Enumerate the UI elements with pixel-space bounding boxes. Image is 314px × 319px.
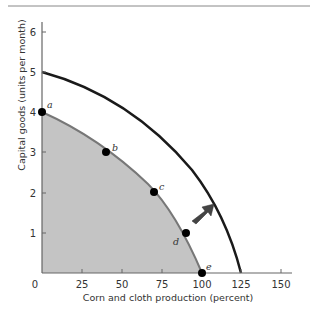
x-tick-label-50: 50 <box>116 279 129 290</box>
shift-arrow-icon <box>192 204 214 224</box>
point-label-e: e <box>206 261 212 272</box>
x-tick-label-125: 125 <box>231 279 250 290</box>
y-tick-label-5: 5 <box>30 67 36 78</box>
y-tick-label-4: 4 <box>30 107 36 118</box>
point-c <box>150 188 158 196</box>
point-label-a: a <box>47 99 53 110</box>
ppf-chart: 1 2 3 4 5 6 0 25 50 75 100 125 150 Corn … <box>0 0 314 319</box>
x-tick-label-100: 100 <box>192 279 211 290</box>
point-label-b: b <box>112 142 118 153</box>
y-tick-label-6: 6 <box>30 27 36 38</box>
y-axis-title: Capital goods (units per month) <box>16 19 27 170</box>
x-tick-label-75: 75 <box>156 279 169 290</box>
point-e <box>198 269 206 277</box>
y-tick-label-3: 3 <box>30 147 36 158</box>
point-b <box>102 148 110 156</box>
attainable-region <box>42 112 202 273</box>
y-tick-label-1: 1 <box>30 228 36 239</box>
x-axis-title: Corn and cloth production (percent) <box>83 292 253 303</box>
point-label-c: c <box>159 181 165 192</box>
point-d <box>182 229 190 237</box>
x-tick-label-0: 0 <box>32 279 38 290</box>
x-tick-label-150: 150 <box>271 279 290 290</box>
point-label-d: d <box>173 236 179 247</box>
point-a <box>38 108 46 116</box>
y-tick-label-2: 2 <box>30 188 36 199</box>
x-tick-label-25: 25 <box>76 279 89 290</box>
